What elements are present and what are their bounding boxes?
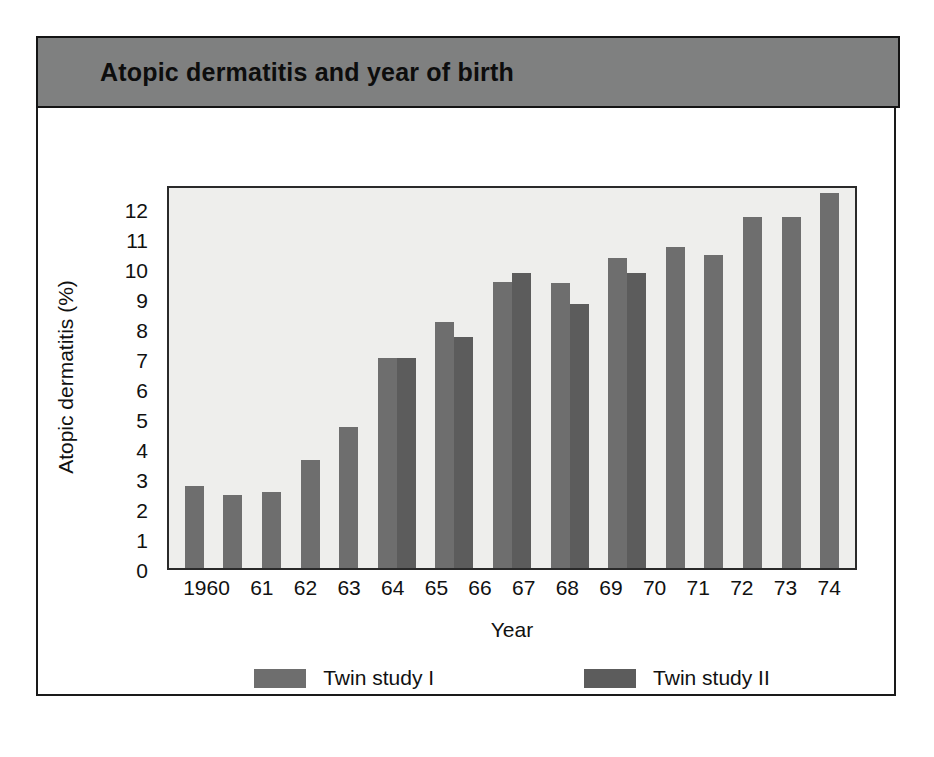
- bar-group: [301, 188, 320, 568]
- y-axis-tick-labels: 0123456789101112: [108, 186, 148, 570]
- x-axis-tick-label: 65: [425, 576, 448, 606]
- bar: [397, 358, 416, 568]
- bar-group: [262, 188, 281, 568]
- x-axis-tick-label: 64: [381, 576, 404, 606]
- bar: [820, 193, 839, 568]
- y-axis-tick-label: 9: [136, 290, 148, 311]
- legend-entry: Twin study II: [584, 666, 770, 690]
- bar: [551, 283, 570, 568]
- x-axis-tick-label: 72: [730, 576, 753, 606]
- x-axis-tick-label: 69: [599, 576, 622, 606]
- bar-group: [551, 188, 589, 568]
- bar: [627, 273, 646, 569]
- y-axis-tick-label: 11: [126, 230, 148, 251]
- bar: [782, 217, 801, 568]
- bar: [339, 427, 358, 568]
- y-axis-tick-label: 10: [125, 260, 148, 281]
- y-axis-tick-label: 3: [136, 470, 148, 491]
- y-axis-tick-label: 6: [136, 380, 148, 401]
- bar: [704, 255, 723, 569]
- bar-group: [820, 188, 839, 568]
- bar-group: [378, 188, 416, 568]
- bar: [185, 486, 204, 569]
- x-axis-tick-label: 1960: [183, 576, 230, 606]
- x-axis-tick-label: 68: [556, 576, 579, 606]
- legend-entry: Twin study I: [254, 666, 434, 690]
- bar: [435, 322, 454, 568]
- chart-region: Atopic dermatitis (%) 0123456789101112 1…: [38, 110, 894, 694]
- x-axis-tick-label: 67: [512, 576, 535, 606]
- y-axis-title: Atopic dermatitis (%): [54, 237, 78, 517]
- bar: [493, 282, 512, 569]
- bar: [608, 258, 627, 569]
- plot-area: [167, 186, 857, 570]
- y-axis-tick-label: 7: [136, 350, 148, 371]
- y-axis-tick-label: 4: [136, 440, 148, 461]
- y-axis-tick-label: 8: [136, 320, 148, 341]
- bar-group: [339, 188, 358, 568]
- x-axis-tick-label: 62: [294, 576, 317, 606]
- x-axis-tick-label: 66: [468, 576, 491, 606]
- y-axis-tick-label: 12: [125, 200, 148, 221]
- bar-group: [493, 188, 531, 568]
- bar-group: [666, 188, 685, 568]
- figure-title-banner: Atopic dermatitis and year of birth: [36, 36, 900, 108]
- bar: [743, 217, 762, 568]
- legend-swatch: [254, 669, 306, 688]
- bar-group: [223, 188, 242, 568]
- bar: [666, 247, 685, 568]
- bar: [223, 495, 242, 569]
- x-axis-tick-label: 61: [250, 576, 273, 606]
- bars-container: [169, 188, 855, 568]
- bar-group: [608, 188, 646, 568]
- x-axis-tick-label: 71: [687, 576, 710, 606]
- bar: [570, 304, 589, 568]
- y-axis-tick-label: 5: [136, 410, 148, 431]
- y-axis-tick-label: 0: [136, 560, 148, 581]
- x-axis-tick-label: 63: [337, 576, 360, 606]
- figure-card: Atopic dermatitis and year of birth Atop…: [36, 36, 896, 696]
- legend-swatch: [584, 669, 636, 688]
- x-axis-tick-label: 74: [817, 576, 840, 606]
- bar-group: [704, 188, 723, 568]
- legend-label: Twin study I: [323, 666, 434, 690]
- x-axis-tick-label: 73: [774, 576, 797, 606]
- bar: [301, 460, 320, 568]
- bar: [454, 337, 473, 568]
- x-axis-title: Year: [167, 618, 857, 642]
- chart-legend: Twin study ITwin study II: [167, 666, 857, 690]
- bar-group: [782, 188, 801, 568]
- x-axis-tick-label: 70: [643, 576, 666, 606]
- y-axis-tick-label: 2: [136, 500, 148, 521]
- bar-group: [185, 188, 204, 568]
- page-root: Atopic dermatitis and year of birth Atop…: [0, 0, 934, 757]
- bar-group: [435, 188, 473, 568]
- y-axis-tick-label: 1: [136, 530, 148, 551]
- bar: [262, 492, 281, 569]
- figure-title: Atopic dermatitis and year of birth: [100, 58, 514, 87]
- bar: [378, 358, 397, 568]
- bar: [512, 273, 531, 569]
- bar-group: [743, 188, 762, 568]
- x-axis-tick-labels: 19606162636465666768697071727374: [167, 576, 857, 606]
- legend-label: Twin study II: [653, 666, 770, 690]
